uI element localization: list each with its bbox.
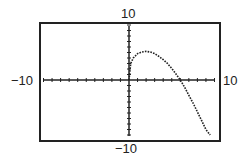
- graph-window: [0, 0, 252, 162]
- function-curve: [129, 51, 210, 135]
- viewing-window-frame: [40, 23, 220, 141]
